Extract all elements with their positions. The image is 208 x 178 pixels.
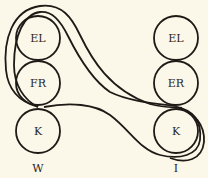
label-w-fr: FR: [30, 77, 47, 90]
label-w-el: EL: [30, 32, 46, 45]
diagram-canvas: EL FR K EL ER K W I: [0, 0, 208, 178]
label-i-er: ER: [168, 77, 185, 90]
column-label-i: I: [174, 162, 178, 175]
label-i-k: K: [172, 125, 181, 138]
label-i-el: EL: [168, 32, 184, 45]
label-w-k: K: [34, 125, 43, 138]
column-label-w: W: [32, 162, 44, 175]
